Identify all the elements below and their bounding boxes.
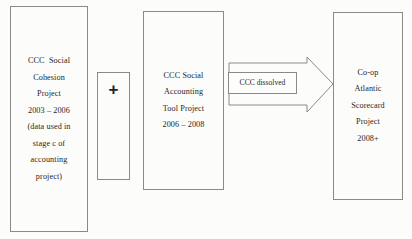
box-text-line: accounting: [11, 152, 87, 169]
box-text-line: Project: [334, 114, 402, 131]
box-text-line: Project: [11, 86, 87, 103]
box-text-line: project): [11, 169, 87, 186]
box-text-line: stage c of: [11, 136, 87, 153]
box-text-line: CCC Social: [144, 68, 223, 85]
diagram-canvas: CCC Social Cohesion Project 2003 – 2006 …: [0, 0, 412, 239]
box-ccc-social-cohesion-project: CCC Social Cohesion Project 2003 – 2006 …: [10, 6, 88, 232]
box-text-line: Scorecard: [334, 98, 402, 115]
box-ccc-social-accounting-tool-project: CCC Social Accounting Tool Project 2006 …: [143, 11, 224, 190]
box-plus-connector: +: [97, 72, 130, 180]
box-text-line: Tool Project: [144, 101, 223, 118]
plus-icon: +: [98, 81, 129, 98]
arrow-label-ccc-dissolved: CCC dissolved: [228, 72, 297, 94]
box-text-line: Accounting: [144, 84, 223, 101]
box-coop-atlantic-scorecard-project: Co-op Atlantic Scorecard Project 2008+: [333, 12, 403, 200]
box-text-line: CCC Social: [11, 53, 87, 70]
box-text-line: 2006 – 2008: [144, 117, 223, 134]
box-text-line: 2003 – 2006: [11, 103, 87, 120]
box-text-line: (data used in: [11, 119, 87, 136]
box-text-line: Cohesion: [11, 70, 87, 87]
arrow-label-text: CCC dissolved: [240, 78, 286, 88]
box-text-line: 2008+: [334, 131, 402, 148]
box-text-line: Co-op: [334, 65, 402, 82]
box-text-line: Atlantic: [334, 81, 402, 98]
